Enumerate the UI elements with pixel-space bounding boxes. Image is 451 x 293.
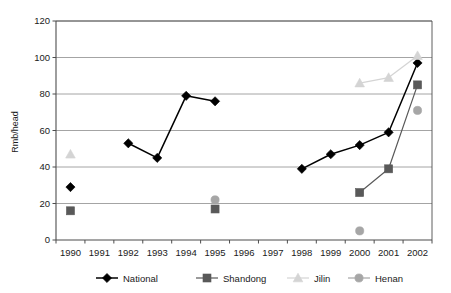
data-point-shandong-2000	[356, 189, 364, 197]
legend-item-shandong: Shandong	[196, 273, 266, 284]
legend-label-national: National	[123, 273, 158, 284]
data-point-shandong-1990	[66, 207, 74, 215]
x-tick-label-1994: 1994	[176, 247, 197, 258]
legend-label-shandong: Shandong	[223, 273, 266, 284]
data-point-shandong-2002	[414, 81, 422, 89]
x-tick-label-1991: 1991	[89, 247, 110, 258]
legend-label-henan: Henan	[375, 273, 403, 284]
legend-label-jilin: Jilin	[314, 273, 330, 284]
x-tick-label-2000: 2000	[349, 247, 370, 258]
y-tick-label-20: 20	[39, 198, 50, 209]
x-tick-label-1992: 1992	[118, 247, 139, 258]
y-tick-label-60: 60	[39, 125, 50, 136]
x-tick-label-1993: 1993	[147, 247, 168, 258]
x-tick-label-2002: 2002	[407, 247, 428, 258]
x-tick-label-1998: 1998	[291, 247, 312, 258]
x-tick-label-1999: 1999	[320, 247, 341, 258]
y-tick-label-0: 0	[45, 234, 50, 245]
x-tick-label-2001: 2001	[378, 247, 399, 258]
legend-marker-shandong	[203, 274, 211, 282]
line-chart: 020406080100120 199019911992199319941995…	[0, 0, 451, 293]
y-tick-label-80: 80	[39, 88, 50, 99]
data-point-henan-1995	[211, 196, 219, 204]
y-tick-label-120: 120	[34, 15, 50, 26]
data-point-shandong-1995	[211, 205, 219, 213]
chart-container: 020406080100120 199019911992199319941995…	[0, 0, 451, 293]
x-tick-label-1995: 1995	[205, 247, 226, 258]
legend-marker-henan	[355, 274, 363, 282]
data-point-henan-2000	[356, 227, 364, 235]
x-tick-label-1990: 1990	[60, 247, 81, 258]
y-tick-label-100: 100	[34, 52, 50, 63]
x-tick-label-1997: 1997	[262, 247, 283, 258]
data-point-henan-2002	[413, 106, 421, 114]
y-tick-label-40: 40	[39, 161, 50, 172]
x-tick-label-1996: 1996	[233, 247, 254, 258]
data-point-shandong-2001	[385, 165, 393, 173]
y-axis-title: Rmb/head	[10, 111, 20, 153]
